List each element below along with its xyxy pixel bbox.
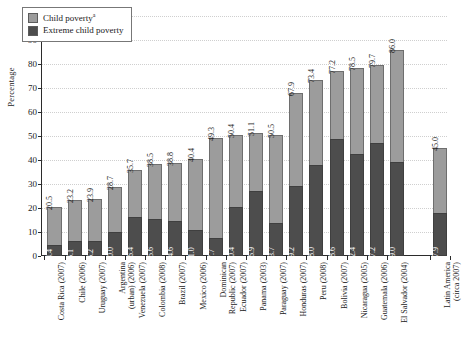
bar-value-label-total: 23.2 (66, 189, 75, 203)
x-axis-tick-mark (347, 256, 348, 260)
bar-group: 47.279.7 (370, 16, 384, 256)
bar-value-label-extreme: 26.9 (247, 247, 256, 261)
bar-value-label-total: 50.5 (267, 124, 276, 138)
y-axis-tick-label: 20 (28, 203, 37, 213)
bar-group: 48.677.2 (330, 16, 344, 256)
x-axis-category-label: DominicanRepublic (2007) (220, 262, 237, 314)
y-axis-tick-label: 80 (28, 59, 37, 69)
x-axis-category-label: Latin America(circa 2007) (444, 262, 461, 308)
x-axis-tick-mark (65, 256, 66, 260)
bar-extreme-child-poverty (350, 154, 364, 256)
bar-value-label-extreme: 15.6 (146, 247, 155, 261)
legend-swatch-child-poverty (28, 13, 38, 23)
bar-value-label-extreme: 6.1 (66, 249, 75, 259)
bar-value-label-extreme: 47.2 (368, 247, 377, 261)
x-axis-category-label: Colombia (2008) (159, 262, 168, 317)
bar-value-label-extreme: 42.4 (348, 247, 357, 261)
x-axis-tick-mark (306, 256, 307, 260)
bar-group: 29.267.9 (289, 16, 303, 256)
x-axis-tick-mark (327, 256, 328, 260)
y-axis-tick-mark (38, 88, 41, 89)
x-axis-tick-mark (44, 256, 45, 260)
y-axis-tick-label: 50 (28, 131, 37, 141)
bar-group: 42.478.5 (350, 16, 364, 256)
y-axis-tick-label: 70 (28, 83, 37, 93)
x-axis-tick-mark (286, 256, 287, 260)
bar-value-label-extreme: 7.7 (207, 249, 216, 259)
x-axis-category-label: Paraguay (2007) (280, 262, 289, 315)
bar-value-label-extreme: 4.4 (45, 249, 54, 259)
bar-value-label-extreme: 13.7 (267, 247, 276, 261)
x-axis-category-label: Chile (2006) (79, 262, 88, 303)
bar-group: 39.086.0 (390, 16, 404, 256)
x-axis-category-label: Nicaragua (2005) (361, 262, 370, 318)
legend-item-child-poverty: Child povertya (28, 12, 123, 24)
bar-value-label-total: 20.5 (45, 196, 54, 210)
chart-legend: Child povertya Extreme child poverty (22, 7, 132, 42)
bar-group: 14.638.8 (168, 16, 182, 256)
legend-label-child-poverty: Child povertya (43, 12, 95, 24)
y-axis-tick-label: 30 (28, 179, 37, 189)
bar-extreme-child-poverty (289, 186, 303, 256)
bar-value-label-total: 40.4 (187, 148, 196, 162)
y-axis-tick-mark (38, 112, 41, 113)
y-axis-tick-mark (38, 160, 41, 161)
bar-extreme-child-poverty (370, 143, 384, 256)
legend-swatch-extreme-child-poverty (28, 26, 38, 36)
bar-value-label-total: 86.0 (388, 39, 397, 53)
bar-value-label-total: 38.8 (166, 152, 175, 166)
y-axis-tick-label: 40 (28, 155, 37, 165)
bar-group: 17.945.0 (433, 16, 447, 256)
bar-group: 38.073.4 (309, 16, 323, 256)
x-axis-tick-mark (165, 256, 166, 260)
y-axis-tick-mark (38, 64, 41, 65)
y-axis-tick-label: 0 (33, 251, 38, 261)
bar-extreme-child-poverty (390, 162, 404, 256)
x-axis-tick-mark (226, 256, 227, 260)
x-axis-category-label: Argentina(urban) (2006) (119, 262, 136, 309)
bar-value-label-total: 79.7 (368, 54, 377, 68)
x-axis-tick-mark (145, 256, 146, 260)
y-axis-tick-mark (38, 256, 41, 257)
bar-value-label-total: 38.5 (146, 153, 155, 167)
bar-group: 20.450.4 (229, 16, 243, 256)
bar-value-label-extreme: 39.0 (388, 247, 397, 261)
y-axis-tick-mark (38, 136, 41, 137)
bar-value-label-extreme: 17.9 (431, 247, 440, 261)
bar-group: 7.749.3 (209, 16, 223, 256)
x-axis-tick-mark (266, 256, 267, 260)
legend-superscript-a: a (93, 12, 96, 18)
x-axis-tick-mark (450, 256, 451, 260)
x-axis-tick-mark (185, 256, 186, 260)
bar-value-label-total: 45.0 (431, 137, 440, 151)
bar-group: 6.123.2 (68, 16, 82, 256)
x-axis-tick-mark (206, 256, 207, 260)
bar-extreme-child-poverty (309, 165, 323, 256)
bar-value-label-extreme: 11.0 (187, 247, 196, 261)
bar-value-label-total: 78.5 (348, 57, 357, 71)
x-axis-category-label: Costa Rica (2007) (58, 262, 67, 320)
x-axis-category-label: El Salvador (2004) (401, 262, 410, 323)
bar-value-label-extreme: 10.0 (106, 247, 115, 261)
y-axis-tick-label: 60 (28, 107, 37, 117)
y-axis-tick-label: 10 (28, 227, 37, 237)
y-axis-tick-mark (38, 232, 41, 233)
x-axis-category-label: Mexico (2006) (200, 262, 209, 310)
bar-group: 13.750.5 (269, 16, 283, 256)
x-axis-tick-mark (387, 256, 388, 260)
x-axis-tick-mark (246, 256, 247, 260)
legend-item-extreme-child-poverty: Extreme child poverty (28, 25, 123, 36)
bar-value-label-total: 28.7 (106, 176, 115, 190)
bar-value-label-extreme: 29.2 (287, 247, 296, 261)
bar-value-label-total: 23.9 (86, 188, 95, 202)
bar-value-label-total: 73.4 (307, 69, 316, 83)
bar-value-label-total: 35.7 (126, 159, 135, 173)
bar-value-label-extreme: 38.0 (307, 247, 316, 261)
bar-value-label-extreme: 16.4 (126, 247, 135, 261)
bar-value-label-total: 77.2 (328, 60, 337, 74)
bar-value-label-total: 51.1 (247, 122, 256, 136)
x-axis-tick-mark (430, 256, 431, 260)
x-axis-tick-mark (367, 256, 368, 260)
x-axis-category-label: Ecuador (2007) (240, 262, 249, 312)
